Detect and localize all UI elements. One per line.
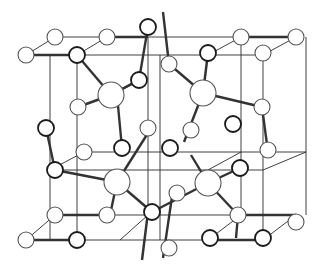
atom [131,72,147,88]
crystal-structure-diagram [0,0,316,271]
atom [114,140,130,156]
atom [99,207,115,223]
atom [232,160,248,176]
atom [233,29,249,45]
atom [225,116,241,132]
atom [47,162,63,178]
atom [140,19,156,35]
atom [183,122,199,138]
atom [162,140,178,156]
atom [200,45,216,61]
atom [230,207,246,223]
atom [255,230,271,246]
large-atom [195,170,221,196]
atom [70,99,86,115]
atom [38,120,54,136]
atom [18,47,34,63]
atom [288,29,304,45]
atom [255,45,271,61]
large-atom [104,169,130,195]
atom [260,142,276,158]
atom [161,240,177,256]
atom [169,185,185,201]
atom [161,56,177,72]
atom [288,214,304,230]
structure-canvas [0,0,316,271]
atom [47,29,63,45]
atom [69,47,85,63]
atom [69,232,85,248]
atom [144,204,160,220]
atom [254,99,270,115]
large-atom [190,80,216,106]
atom [76,144,92,160]
atom [99,29,115,45]
atom [47,207,63,223]
atom [140,120,156,136]
atom [202,230,218,246]
large-atom [98,82,124,108]
atom [18,232,34,248]
